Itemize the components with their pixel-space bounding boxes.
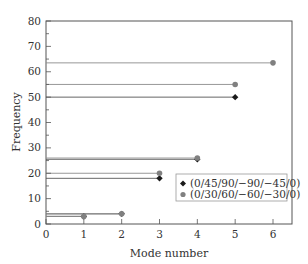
legend-circle-icon <box>180 192 185 197</box>
y-tick-label: 70 <box>28 40 41 52</box>
legend-entry-2: (0/30/60/−60/−30/0) <box>190 188 300 200</box>
circle-marker-icon <box>270 60 276 66</box>
circle-marker-icon <box>195 155 201 161</box>
diamond-marker-icon <box>156 175 162 181</box>
y-tick-label: 60 <box>28 65 41 77</box>
y-tick-label: 50 <box>28 91 41 103</box>
y-tick-label: 30 <box>28 141 41 153</box>
y-tick-label: 10 <box>28 192 41 204</box>
x-tick-label: 4 <box>194 228 201 240</box>
x-axis-ticks: 0123456 <box>43 219 277 240</box>
x-tick-label: 3 <box>156 228 163 240</box>
x-axis-label: Mode number <box>130 247 209 260</box>
x-tick-label: 5 <box>232 228 239 240</box>
circle-marker-icon <box>232 82 238 88</box>
y-tick-label: 40 <box>28 116 41 128</box>
x-tick-label: 0 <box>43 228 50 240</box>
y-axis-ticks: 01020304050607080 <box>28 15 51 230</box>
y-axis-label: Frequency <box>10 91 23 151</box>
circle-marker-icon <box>157 170 163 176</box>
y-tick-label: 0 <box>34 218 41 230</box>
frequency-vs-mode-chart: 01020304050607080 0123456 Mode number Fr… <box>0 0 308 264</box>
circle-marker-icon <box>81 214 87 220</box>
y-tick-label: 80 <box>28 15 41 27</box>
x-tick-label: 1 <box>80 228 87 240</box>
x-tick-label: 6 <box>270 228 277 240</box>
diamond-marker-icon <box>232 94 238 100</box>
circle-marker-icon <box>119 211 125 217</box>
y-tick-label: 20 <box>28 167 41 179</box>
legend: (0/45/90/−90/−45/0) (0/30/60/−60/−30/0) <box>176 174 300 201</box>
x-tick-label: 2 <box>118 228 125 240</box>
